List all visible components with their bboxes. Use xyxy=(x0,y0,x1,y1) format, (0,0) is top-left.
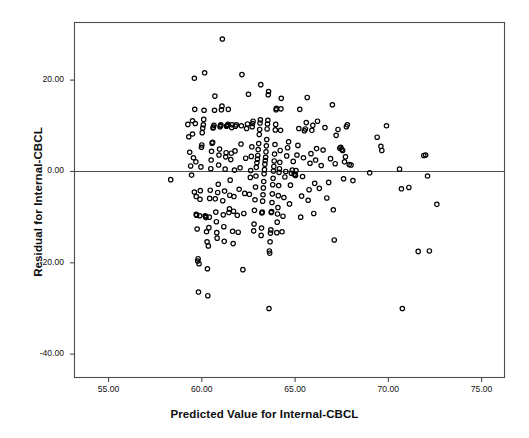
y-tick-label: -20.00 xyxy=(4,257,64,267)
x-tick-label: 65.00 xyxy=(265,384,325,394)
x-tick-label: 70.00 xyxy=(358,384,418,394)
x-tick-label: 60.00 xyxy=(172,384,232,394)
y-tick-label: 0.00 xyxy=(4,165,64,175)
y-axis-title: Residual for Internal-CBCL xyxy=(32,82,44,322)
y-tick-label: 20.00 xyxy=(4,74,64,84)
plot-frame xyxy=(75,23,505,378)
plot-canvas xyxy=(0,0,529,438)
x-axis-title: Predicted Value for Internal-CBCL xyxy=(0,408,529,420)
x-tick-label: 75.00 xyxy=(452,384,512,394)
y-tick-label: -40.00 xyxy=(4,348,64,358)
residual-scatter-plot: Predicted Value for Internal-CBCL Residu… xyxy=(0,0,529,438)
x-tick-label: 55.00 xyxy=(79,384,139,394)
